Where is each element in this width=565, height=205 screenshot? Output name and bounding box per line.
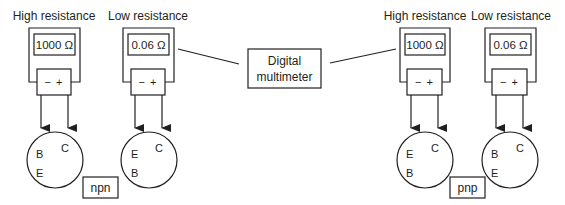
pin-label: B [131,167,138,179]
pin-label: E [406,148,413,160]
pnp-type-tag: pnp [450,177,485,198]
pin-label: C [155,142,163,154]
type-label: npn [90,181,110,195]
callout-line-2: multimeter [256,70,312,84]
meter-label: High resistance [13,9,96,23]
digital-multimeter-callout: Digital multimeter [248,49,321,88]
transistor-outline [121,132,177,188]
meter-label: High resistance [384,9,467,23]
polarity-label: − + [45,76,64,88]
transistor-test-diagram: High resistance 1000 Ω − + B E C Low res… [0,0,565,205]
pin-label: C [431,142,439,154]
pin-label: C [61,142,69,154]
meter-reading: 0.06 Ω [131,39,166,51]
meter-label: Low resistance [471,9,551,23]
transistor-3: E B C [397,132,453,188]
leader-line [178,49,239,64]
meter-reading: 1000 Ω [406,39,444,51]
meter-high-resistance-npn: High resistance 1000 Ω − + [13,9,96,128]
polarity-label: − + [415,76,434,88]
pin-label: E [131,148,138,160]
transistor-outline [482,132,538,188]
npn-type-tag: npn [83,177,118,198]
pin-label: B [406,167,413,179]
meter-high-resistance-pnp: High resistance 1000 Ω − + [384,9,467,128]
pin-label: E [491,167,498,179]
leader-line [330,49,396,63]
pin-label: E [36,167,43,179]
pin-label: C [516,142,524,154]
transistor-outline [397,132,453,188]
pin-label: B [36,148,43,160]
transistor-outline [27,132,83,188]
meter-reading: 0.06 Ω [493,39,528,51]
pin-label: B [491,148,498,160]
meter-low-resistance-npn: Low resistance 0.06 Ω − + [108,9,188,128]
type-label: pnp [457,181,477,195]
transistor-1: B E C [27,132,83,188]
transistor-2: E B C [121,132,177,188]
callout-line-1: Digital [268,54,301,68]
meter-reading: 1000 Ω [36,39,74,51]
meter-label: Low resistance [108,9,188,23]
polarity-label: − + [139,76,158,88]
transistor-4: B E C [482,132,538,188]
meter-low-resistance-pnp: Low resistance 0.06 Ω − + [471,9,551,128]
polarity-label: − + [500,76,519,88]
